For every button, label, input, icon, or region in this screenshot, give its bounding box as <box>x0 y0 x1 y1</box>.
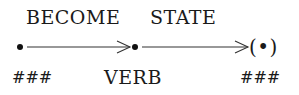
bottom-label-right: ### <box>240 68 280 87</box>
bottom-label-left: ### <box>12 68 52 87</box>
middle-node-dot <box>132 44 138 50</box>
end-node-optional: (•) <box>249 35 278 59</box>
bottom-label-verb: VERB <box>104 66 162 88</box>
start-node-dot <box>17 44 23 50</box>
